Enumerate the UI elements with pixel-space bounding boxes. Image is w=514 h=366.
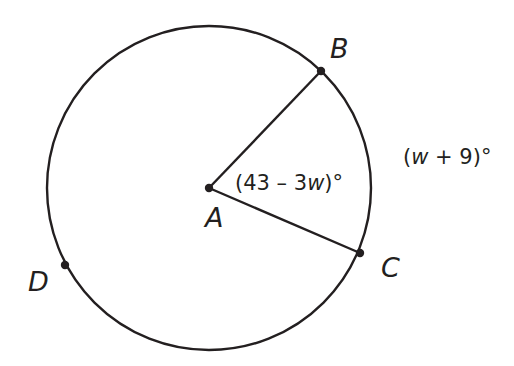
label-A: A	[203, 202, 223, 233]
point-D-dot	[61, 261, 69, 269]
label-D: D	[28, 266, 49, 297]
point-A-dot	[205, 184, 213, 192]
central-angle-label: (43 – 3w)°	[235, 171, 343, 195]
circle-diagram: A B C D (43 – 3w)° (w + 9)°	[0, 0, 514, 366]
point-C-dot	[356, 249, 364, 257]
radius-AC	[209, 188, 360, 253]
point-B-dot	[317, 67, 325, 75]
arc-measure-label: (w + 9)°	[403, 145, 491, 169]
label-B: B	[330, 33, 349, 64]
label-C: C	[381, 252, 400, 283]
